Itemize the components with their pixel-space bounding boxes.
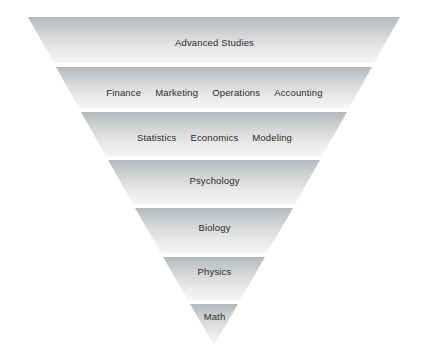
funnel-band-advanced-studies[interactable] [28,17,400,63]
funnel-band-quantitative-disciplines[interactable] [81,112,347,156]
funnel-band-math[interactable] [190,304,238,345]
funnel-band-physics[interactable] [163,257,265,300]
funnel-shape-group [0,0,429,358]
inverted-pyramid-diagram: Advanced StudiesFinanceMarketingOperatio… [0,0,429,358]
funnel-band-business-disciplines[interactable] [56,67,372,108]
funnel-band-psychology[interactable] [108,160,320,204]
funnel-band-biology[interactable] [135,208,293,253]
funnel-bands [28,17,400,345]
